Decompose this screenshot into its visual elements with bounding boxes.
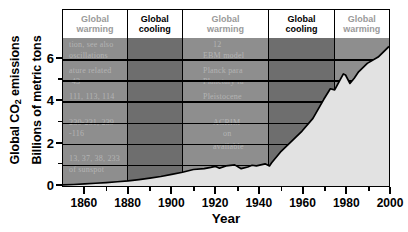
x-tick-major-1920	[214, 187, 216, 194]
y-tick-major-6	[56, 57, 63, 59]
x-tick-major-1940	[258, 187, 260, 194]
x-tick-label-1920: 1920	[202, 196, 229, 210]
x-tick-major-2000	[389, 187, 391, 194]
x-tick-major-1880	[127, 187, 129, 194]
y-tick-minor-1	[58, 163, 63, 165]
era-label-line2: warming	[343, 24, 380, 34]
x-tick-minor-1990	[368, 187, 370, 191]
x-tick-minor-1970	[324, 187, 326, 191]
era-label-warming-2: Globalwarming	[183, 10, 270, 38]
x-tick-major-1860	[83, 187, 85, 194]
x-tick-major-1960	[302, 187, 304, 194]
y-tick-major-0	[56, 184, 63, 186]
y-tick-minor-3	[58, 121, 63, 123]
co2-emissions-chart: Global CO2 emissions Billions of metric …	[0, 0, 408, 232]
x-tick-minor-1910	[193, 187, 195, 191]
era-label-warming-0: Globalwarming	[63, 10, 128, 38]
x-tick-major-1980	[345, 187, 347, 194]
era-label-line2: warming	[207, 24, 244, 34]
x-tick-label-1880: 1880	[114, 196, 141, 210]
y-tick-label-2: 2	[38, 136, 54, 149]
x-axis-title: Year	[62, 211, 390, 226]
x-tick-label-1980: 1980	[333, 196, 360, 210]
y-axis-tick-labels: 0246	[36, 0, 54, 232]
y-tick-label-4: 4	[38, 94, 54, 107]
era-label-cooling-1: Globalcooling	[128, 10, 182, 38]
plot-body: tion, see alsooscillationsature related-…	[63, 38, 389, 186]
x-tick-label-1900: 1900	[158, 196, 185, 210]
x-tick-minor-1950	[281, 187, 283, 191]
era-label-line2: cooling	[286, 24, 318, 34]
x-tick-major-1900	[170, 187, 172, 194]
x-tick-label-1940: 1940	[245, 196, 272, 210]
y-tick-major-4	[56, 99, 63, 101]
x-tick-minor-1890	[149, 187, 151, 191]
era-label-line1: Global	[211, 14, 239, 24]
era-header-row: GlobalwarmingGlobalcoolingGlobalwarmingG…	[63, 10, 389, 38]
era-label-line1: Global	[141, 14, 169, 24]
era-label-line1: Global	[288, 14, 316, 24]
emissions-area-curve	[63, 38, 389, 186]
era-label-cooling-3: Globalcooling	[269, 10, 334, 38]
plot-area: GlobalwarmingGlobalcoolingGlobalwarmingG…	[62, 9, 390, 187]
era-label-warming-4: Globalwarming	[335, 10, 389, 38]
era-label-line2: cooling	[139, 24, 171, 34]
x-tick-label-1860: 1860	[71, 196, 98, 210]
era-label-line2: warming	[77, 24, 114, 34]
x-tick-minor-1930	[237, 187, 239, 191]
x-tick-minor-1870	[106, 187, 108, 191]
y-axis-title-line1: Global CO2 emissions	[8, 36, 22, 165]
era-label-line1: Global	[348, 14, 376, 24]
y-tick-label-0: 0	[38, 179, 54, 192]
y-tick-label-6: 6	[38, 52, 54, 65]
x-tick-label-2000: 2000	[377, 196, 404, 210]
y-tick-major-2	[56, 142, 63, 144]
y-tick-minor-5	[58, 78, 63, 80]
era-label-line1: Global	[81, 14, 109, 24]
x-tick-label-1960: 1960	[289, 196, 316, 210]
